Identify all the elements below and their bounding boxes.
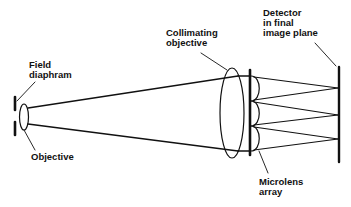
label-field-diaphragm: Field diaphram [29,60,72,80]
ray-ml3-bottom [254,139,338,150]
microlens-2 [251,101,259,126]
collimating-objective-lens [220,68,244,158]
label-detector: Detector in final image plane [263,8,318,38]
objective-lens [20,104,29,130]
ray-lower [28,124,238,151]
leader-field-diaphragm [17,82,35,101]
leader-collimating-objective [201,53,227,70]
ray-upper [28,76,238,108]
ray-ml3-top [254,127,338,139]
ray-ml2-bottom [254,115,338,125]
ray-ml1-top [254,77,338,88]
label-objective: Objective [31,152,74,162]
optical-diagram: Field diaphram Objective Collimating obj… [0,0,351,207]
label-microlens-array: Microlens array [259,177,303,197]
leader-detector [315,43,336,66]
ray-ml1-bottom [254,88,338,100]
ray-ml2-top [254,102,338,115]
label-collimating-objective: Collimating objective [166,28,218,48]
leader-objective [24,130,35,150]
microlens-1 [251,76,259,101]
microlens-3 [251,126,259,151]
leader-microlens-array [259,151,268,173]
